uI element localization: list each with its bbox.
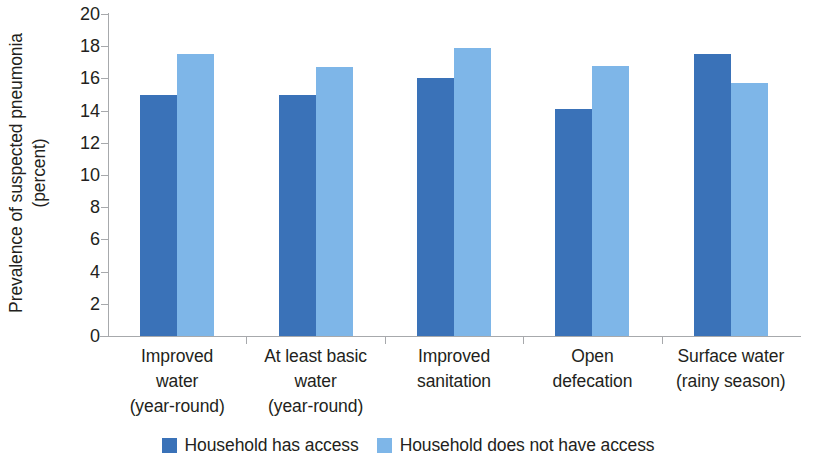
x-axis-category-labels: Improvedwater(year-round)At least basicw… — [108, 344, 800, 422]
bar — [279, 95, 316, 337]
y-axis-tick-label: 10 — [60, 166, 100, 184]
y-axis-tick-labels: 20181614121086420 — [58, 14, 100, 336]
y-axis-tick — [101, 304, 108, 305]
x-axis-category-label: At least basicwater(year-round) — [236, 344, 394, 419]
x-axis-category-label-line: (rainy season) — [652, 369, 810, 394]
y-axis-tick-label: 8 — [60, 198, 100, 216]
bar — [140, 95, 177, 337]
y-axis-tick — [101, 336, 108, 337]
x-axis-tick — [385, 336, 386, 344]
y-axis-tick — [101, 14, 108, 15]
y-axis-tick — [101, 78, 108, 79]
y-axis-tick-label: 4 — [60, 263, 100, 281]
x-axis-category-label-line: defecation — [513, 369, 671, 394]
x-axis-tick — [523, 336, 524, 344]
x-axis-line — [100, 336, 801, 337]
x-axis-category-label-line: Improved — [98, 344, 256, 369]
legend-item[interactable]: Household has access — [162, 435, 359, 455]
bar — [177, 54, 214, 336]
y-axis-tick-label: 16 — [60, 69, 100, 87]
bar — [694, 54, 731, 336]
y-axis-line — [108, 13, 109, 337]
x-axis-tick — [246, 336, 247, 344]
y-axis-title: Prevalence of suspected pneumonia (perce… — [0, 0, 56, 345]
y-axis-tick — [101, 239, 108, 240]
y-axis-tick — [101, 111, 108, 112]
bar — [316, 67, 353, 336]
y-axis-tick — [101, 272, 108, 273]
bar — [555, 109, 592, 336]
y-axis-title-line-1: Prevalence of suspected pneumonia — [6, 33, 26, 313]
y-axis-tick-label: 0 — [60, 327, 100, 345]
x-axis-category-label: Improvedwater(year-round) — [98, 344, 256, 419]
bar — [592, 66, 629, 336]
plot-area — [108, 14, 800, 336]
y-axis-tick — [101, 175, 108, 176]
x-axis-category-label-line: water — [98, 369, 256, 394]
x-axis-category-label: Opendefecation — [513, 344, 671, 394]
legend-swatch-icon — [162, 438, 177, 453]
x-axis-category-label: Surface water(rainy season) — [652, 344, 810, 394]
legend-label: Household does not have access — [400, 435, 655, 455]
x-axis-category-label-line: At least basic — [236, 344, 394, 369]
y-axis-tick-label: 20 — [60, 5, 100, 23]
x-axis-category-label-line: (year-round) — [236, 394, 394, 419]
y-axis-tick-label: 2 — [60, 295, 100, 313]
y-axis-tick — [101, 143, 108, 144]
y-axis-tick-label: 14 — [60, 102, 100, 120]
y-axis-tick-label: 6 — [60, 230, 100, 248]
legend-label: Household has access — [185, 435, 359, 455]
x-axis-category-label-line: Surface water — [652, 344, 810, 369]
x-axis-category-label-line: Improved — [375, 344, 533, 369]
bar — [454, 48, 491, 336]
y-axis-tick — [101, 207, 108, 208]
x-axis-category-label-line: Open — [513, 344, 671, 369]
x-axis-tick — [662, 336, 663, 344]
y-axis-tick-label: 18 — [60, 37, 100, 55]
bar — [417, 78, 454, 336]
x-axis-category-label: Improvedsanitation — [375, 344, 533, 394]
legend-swatch-icon — [377, 438, 392, 453]
bar — [731, 83, 768, 336]
x-axis-category-label-line: sanitation — [375, 369, 533, 394]
chart-figure: Prevalence of suspected pneumonia (perce… — [0, 0, 816, 464]
y-axis-title-line-2: (percent) — [28, 33, 51, 313]
chart-legend: Household has accessHousehold does not h… — [0, 431, 816, 459]
y-axis-tick — [101, 46, 108, 47]
legend-item[interactable]: Household does not have access — [377, 435, 655, 455]
x-axis-category-label-line: water — [236, 369, 394, 394]
x-axis-category-label-line: (year-round) — [98, 394, 256, 419]
y-axis-tick-label: 12 — [60, 134, 100, 152]
